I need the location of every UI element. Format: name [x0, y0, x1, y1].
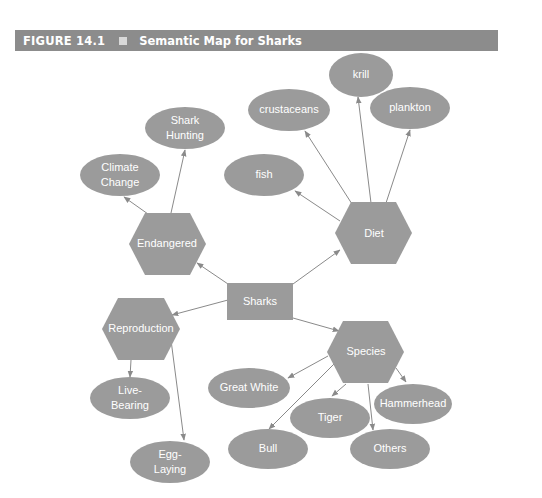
- edge-reproduction-live: [130, 360, 131, 377]
- node-fish: fish: [224, 154, 304, 196]
- edge-diet-fish: [295, 191, 340, 221]
- edge-endangered-hunting: [171, 150, 185, 213]
- node-climate-change: Climate Change: [80, 154, 160, 196]
- node-label: Sharks: [243, 295, 278, 307]
- edge-diet-crustaceans: [305, 131, 352, 204]
- edge-sharks-diet: [293, 250, 340, 284]
- node-label: plankton: [389, 101, 431, 113]
- node-crustaceans: crustaceans: [248, 89, 330, 131]
- node-label: Tiger: [318, 411, 343, 423]
- node-label-line1: Live-: [118, 384, 142, 396]
- node-tiger: Tiger: [290, 398, 370, 438]
- node-label: krill: [353, 68, 370, 80]
- node-shark-hunting: Shark Hunting: [145, 107, 225, 149]
- node-label: Others: [373, 442, 407, 454]
- edge-endangered-climate: [124, 197, 148, 214]
- node-diet: Diet: [335, 202, 412, 264]
- node-species: Species: [327, 321, 404, 383]
- edge-sharks-reproduction: [172, 300, 228, 315]
- node-label-line1: Shark: [171, 114, 200, 126]
- node-endangered: Endangered: [129, 213, 206, 275]
- edge-species-tiger: [332, 384, 346, 396]
- node-label-line2: Hunting: [166, 129, 204, 141]
- node-plankton: plankton: [370, 87, 450, 129]
- node-label: Hammerhead: [380, 397, 447, 409]
- node-egg-laying: Egg- Laying: [130, 441, 210, 483]
- edge-species-greatwhite: [288, 356, 328, 378]
- node-reproduction: Reproduction: [102, 298, 180, 360]
- node-label: Species: [346, 345, 386, 357]
- node-label-line2: Laying: [154, 463, 186, 475]
- node-bull: Bull: [228, 429, 308, 469]
- node-label-line2: Change: [101, 176, 140, 188]
- node-great-white: Great White: [208, 368, 290, 408]
- edge-reproduction-egg: [171, 340, 184, 440]
- node-label: Great White: [220, 381, 279, 393]
- node-label-line2: Bearing: [111, 399, 149, 411]
- node-label-line1: Egg-: [158, 448, 182, 460]
- edge-species-hammerhead: [396, 368, 406, 382]
- node-label: Bull: [259, 442, 277, 454]
- edge-diet-krill: [358, 97, 371, 203]
- node-label: Diet: [364, 227, 384, 239]
- node-hammerhead: Hammerhead: [374, 384, 452, 424]
- edge-species-others: [368, 384, 373, 430]
- node-krill: krill: [329, 53, 393, 97]
- semantic-map: Sharks Endangered Diet Reproduction Spec…: [0, 0, 542, 498]
- node-label: Endangered: [137, 237, 197, 249]
- node-label: fish: [255, 168, 272, 180]
- node-others: Others: [350, 429, 430, 469]
- node-label-line1: Climate: [101, 161, 138, 173]
- edge-sharks-endangered: [197, 263, 228, 284]
- edge-diet-plankton: [386, 130, 410, 203]
- node-live-bearing: Live- Bearing: [90, 377, 170, 419]
- node-label: crustaceans: [259, 103, 319, 115]
- node-sharks: Sharks: [227, 283, 293, 320]
- node-label: Reproduction: [108, 322, 173, 334]
- edge-sharks-species: [293, 318, 339, 331]
